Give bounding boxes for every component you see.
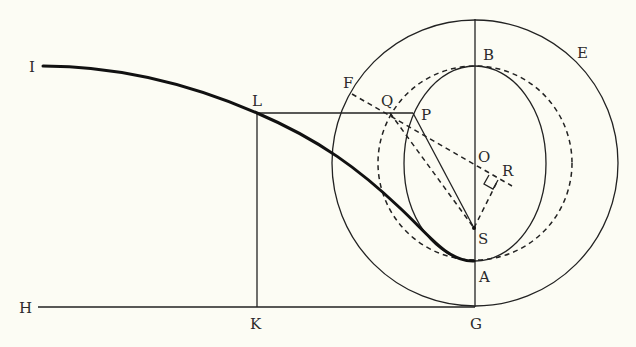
label-i: I — [29, 58, 35, 76]
label-a: A — [478, 268, 490, 286]
label-p: P — [421, 106, 431, 124]
label-l: L — [252, 92, 262, 110]
label-h: H — [19, 299, 32, 317]
dashed-line-f-r — [352, 94, 512, 186]
label-q: Q — [381, 92, 393, 110]
label-f: F — [343, 74, 353, 92]
label-o: O — [478, 148, 490, 166]
label-g: G — [470, 315, 482, 333]
label-k: K — [250, 315, 262, 333]
label-b: B — [483, 46, 494, 64]
point-s — [472, 226, 476, 230]
label-e: E — [577, 44, 588, 62]
line-p-s — [413, 113, 474, 228]
diagram: I L H K G A S O R P Q F B E — [0, 0, 636, 347]
label-s: S — [478, 230, 488, 248]
label-r: R — [502, 162, 514, 180]
